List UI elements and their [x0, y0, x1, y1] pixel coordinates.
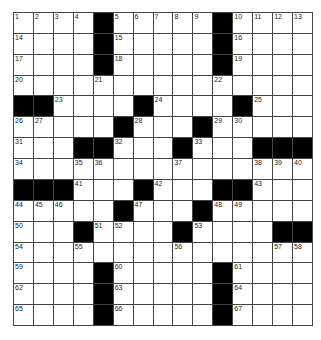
grid-cell[interactable] — [74, 55, 93, 75]
grid-cell[interactable] — [154, 55, 173, 75]
grid-cell[interactable]: 52 — [114, 222, 133, 242]
grid-cell[interactable]: 44 — [14, 201, 33, 221]
grid-cell[interactable] — [74, 76, 93, 96]
grid-cell[interactable] — [293, 34, 312, 54]
grid-cell[interactable] — [193, 305, 212, 325]
grid-cell[interactable] — [253, 55, 272, 75]
grid-cell[interactable] — [193, 243, 212, 263]
grid-cell[interactable]: 42 — [154, 180, 173, 200]
grid-cell[interactable]: 37 — [173, 159, 192, 179]
grid-cell[interactable] — [173, 305, 192, 325]
grid-cell[interactable] — [173, 76, 192, 96]
grid-cell[interactable]: 19 — [233, 55, 252, 75]
grid-cell[interactable] — [94, 117, 113, 137]
grid-cell[interactable]: 62 — [14, 284, 33, 304]
grid-cell[interactable]: 45 — [34, 201, 53, 221]
grid-cell[interactable]: 7 — [154, 13, 173, 33]
grid-cell[interactable]: 39 — [273, 159, 292, 179]
grid-cell[interactable] — [273, 76, 292, 96]
grid-cell[interactable]: 28 — [134, 117, 153, 137]
grid-cell[interactable]: 26 — [14, 117, 33, 137]
grid-cell[interactable]: 67 — [233, 305, 252, 325]
grid-cell[interactable] — [134, 76, 153, 96]
grid-cell[interactable]: 32 — [114, 138, 133, 158]
grid-cell[interactable] — [54, 159, 73, 179]
grid-cell[interactable] — [253, 243, 272, 263]
grid-cell[interactable] — [273, 284, 292, 304]
grid-cell[interactable] — [273, 180, 292, 200]
grid-cell[interactable]: 22 — [213, 76, 232, 96]
grid-cell[interactable] — [233, 222, 252, 242]
grid-cell[interactable] — [293, 180, 312, 200]
grid-cell[interactable] — [233, 159, 252, 179]
grid-cell[interactable]: 43 — [253, 180, 272, 200]
grid-cell[interactable] — [34, 243, 53, 263]
grid-cell[interactable] — [293, 263, 312, 283]
grid-cell[interactable] — [34, 222, 53, 242]
grid-cell[interactable]: 6 — [134, 13, 153, 33]
grid-cell[interactable]: 49 — [233, 201, 252, 221]
grid-cell[interactable]: 27 — [34, 117, 53, 137]
grid-cell[interactable] — [293, 55, 312, 75]
grid-cell[interactable] — [273, 55, 292, 75]
grid-cell[interactable] — [193, 263, 212, 283]
grid-cell[interactable] — [154, 222, 173, 242]
grid-cell[interactable] — [193, 76, 212, 96]
grid-cell[interactable] — [293, 76, 312, 96]
grid-cell[interactable] — [54, 34, 73, 54]
grid-cell[interactable] — [154, 34, 173, 54]
grid-cell[interactable]: 1 — [14, 13, 33, 33]
grid-cell[interactable] — [74, 263, 93, 283]
grid-cell[interactable]: 56 — [173, 243, 192, 263]
grid-cell[interactable] — [233, 76, 252, 96]
grid-cell[interactable]: 3 — [54, 13, 73, 33]
grid-cell[interactable] — [173, 284, 192, 304]
grid-cell[interactable] — [273, 96, 292, 116]
grid-cell[interactable] — [94, 96, 113, 116]
grid-cell[interactable] — [74, 117, 93, 137]
grid-cell[interactable]: 30 — [233, 117, 252, 137]
grid-cell[interactable] — [253, 305, 272, 325]
grid-cell[interactable] — [134, 138, 153, 158]
grid-cell[interactable]: 47 — [134, 201, 153, 221]
grid-cell[interactable]: 38 — [253, 159, 272, 179]
grid-cell[interactable] — [74, 96, 93, 116]
grid-cell[interactable] — [253, 201, 272, 221]
grid-cell[interactable] — [253, 76, 272, 96]
grid-cell[interactable] — [293, 117, 312, 137]
grid-cell[interactable] — [134, 222, 153, 242]
grid-cell[interactable] — [253, 222, 272, 242]
grid-cell[interactable] — [273, 263, 292, 283]
grid-cell[interactable]: 12 — [273, 13, 292, 33]
grid-cell[interactable]: 41 — [74, 180, 93, 200]
grid-cell[interactable]: 29 — [213, 117, 232, 137]
grid-cell[interactable] — [293, 284, 312, 304]
grid-cell[interactable]: 64 — [233, 284, 252, 304]
grid-cell[interactable]: 48 — [213, 201, 232, 221]
grid-cell[interactable] — [154, 117, 173, 137]
grid-cell[interactable]: 34 — [14, 159, 33, 179]
grid-cell[interactable] — [54, 243, 73, 263]
grid-cell[interactable] — [134, 284, 153, 304]
grid-cell[interactable] — [134, 305, 153, 325]
grid-cell[interactable] — [154, 305, 173, 325]
grid-cell[interactable] — [154, 243, 173, 263]
grid-cell[interactable] — [54, 138, 73, 158]
grid-cell[interactable] — [34, 263, 53, 283]
grid-cell[interactable] — [173, 34, 192, 54]
grid-cell[interactable]: 65 — [14, 305, 33, 325]
grid-cell[interactable]: 60 — [114, 263, 133, 283]
grid-cell[interactable]: 53 — [193, 222, 212, 242]
grid-cell[interactable] — [34, 159, 53, 179]
grid-cell[interactable] — [273, 201, 292, 221]
grid-cell[interactable] — [154, 159, 173, 179]
grid-cell[interactable] — [293, 96, 312, 116]
grid-cell[interactable] — [74, 305, 93, 325]
grid-cell[interactable] — [193, 96, 212, 116]
grid-cell[interactable] — [134, 159, 153, 179]
grid-cell[interactable] — [154, 138, 173, 158]
grid-cell[interactable] — [154, 201, 173, 221]
grid-cell[interactable] — [114, 76, 133, 96]
grid-cell[interactable] — [74, 34, 93, 54]
grid-cell[interactable]: 4 — [74, 13, 93, 33]
